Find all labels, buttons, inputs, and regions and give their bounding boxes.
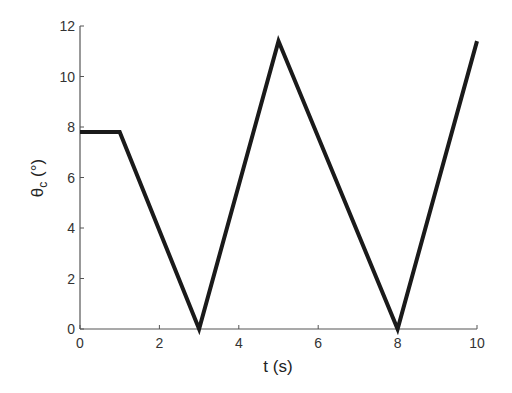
y-axis-label-unit: (°) <box>28 159 47 182</box>
x-tick-label: 0 <box>76 335 84 351</box>
y-axis-label-symbol: θ <box>28 188 47 197</box>
x-tick-label: 2 <box>156 335 164 351</box>
y-tick-label: 12 <box>59 18 75 34</box>
series-line-theta_c <box>80 41 477 329</box>
x-tick-label: 4 <box>235 335 243 351</box>
y-tick-label: 0 <box>67 321 75 337</box>
x-axis-label: t (s) <box>263 357 292 376</box>
x-tick-label: 8 <box>394 335 402 351</box>
series-group <box>80 41 477 329</box>
y-tick-label: 10 <box>59 69 75 85</box>
y-tick-label: 2 <box>67 271 75 287</box>
y-tick-label: 8 <box>67 119 75 135</box>
x-tick-label: 10 <box>469 335 485 351</box>
y-axis-label: θc (°) <box>28 159 50 197</box>
y-tick-label: 6 <box>67 170 75 186</box>
chart: 0246810 024681012 t (s) θc (°) <box>0 0 512 393</box>
y-tick-label: 4 <box>67 220 75 236</box>
x-tick-label: 6 <box>314 335 322 351</box>
